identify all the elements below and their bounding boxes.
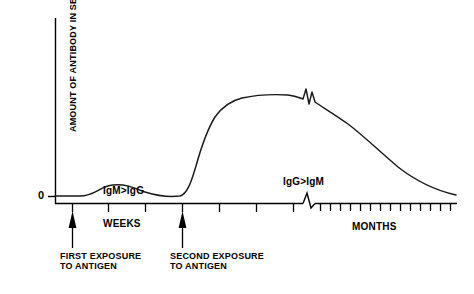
x-ticks-months [321, 204, 451, 212]
antibody-response-figure: AMOUNT OF ANTIBODY IN SERUM 0 IgM>IgG Ig… [0, 0, 474, 294]
antibody-titre-curve [55, 89, 456, 196]
first-exposure-arrow [69, 211, 77, 248]
x-axis-weeks-label: WEEKS [103, 218, 141, 229]
first-exposure-label: FIRST EXPOSURE TO ANTIGEN [60, 251, 141, 271]
x-axis-months-label: MONTHS [352, 221, 397, 232]
igg-greater-than-igm-annotation: IgG>IgM [283, 176, 324, 187]
y-axis-origin-label: 0 [38, 189, 44, 201]
x-axis-break-zigzag [303, 193, 315, 208]
igm-greater-than-igg-annotation: IgM>IgG [103, 185, 144, 196]
x-ticks-weeks [73, 204, 294, 213]
second-exposure-arrow [179, 211, 187, 248]
second-exposure-label: SECOND EXPOSURE TO ANTIGEN [170, 251, 264, 271]
y-axis-title: AMOUNT OF ANTIBODY IN SERUM [68, 2, 78, 132]
